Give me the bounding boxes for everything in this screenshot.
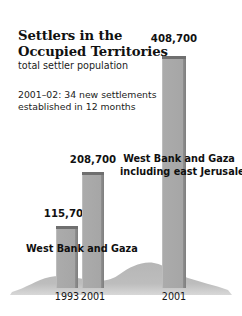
- x-tick-label-2001-left: 2001: [70, 291, 116, 302]
- bar-2001-west-bank-gaza: [82, 172, 104, 288]
- x-tick-label-2001-right: 2001: [151, 291, 197, 302]
- group-label-including-east-jerusalem: West Bank and Gaza including east Jerusa…: [120, 153, 238, 178]
- group-label-right-line-1: West Bank and Gaza: [120, 153, 238, 166]
- plot-area: 115,700 1993 208,700 2001 408,700 2001 W…: [0, 0, 242, 316]
- bar-1993: [56, 226, 78, 288]
- group-label-west-bank-and-gaza: West Bank and Gaza: [26, 243, 138, 256]
- bar-cap-2001-right: [162, 56, 186, 59]
- bar-cap-1993: [56, 226, 78, 229]
- ground-silhouette: [0, 252, 242, 296]
- chart-figure: Settlers in the Occupied Territories tot…: [0, 0, 242, 316]
- bar-value-label-2001-left: 208,700: [60, 154, 126, 165]
- bar-value-label-2001-right: 408,700: [141, 33, 207, 44]
- bar-cap-2001-left: [82, 172, 104, 175]
- group-label-right-line-2: including east Jerusalem: [120, 166, 238, 179]
